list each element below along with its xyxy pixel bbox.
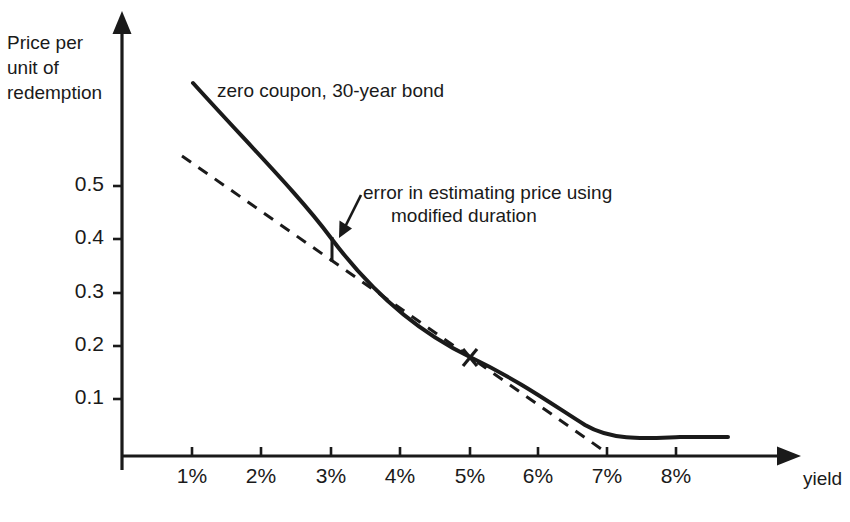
- y-axis-title-line-2: redemption: [7, 80, 102, 105]
- x-axis-title: yield: [803, 466, 842, 491]
- y-tick-label-1: 0.2: [42, 332, 104, 356]
- y-tick-label-2: 0.3: [42, 279, 104, 303]
- x-tick-label-7: 8%: [646, 464, 706, 488]
- y-tick-label-3: 0.4: [42, 225, 104, 249]
- x-tick-label-3: 4%: [370, 464, 430, 488]
- error-annotation-line-2: modified duration: [391, 203, 537, 228]
- y-axis-title-line-0: Price per: [7, 30, 102, 55]
- error-annotation-line-1: error in estimating price using: [363, 180, 612, 205]
- x-tick-label-5: 6%: [508, 464, 568, 488]
- x-tick-label-1: 2%: [231, 464, 291, 488]
- x-tick-label-0: 1%: [162, 464, 222, 488]
- y-tick-label-0: 0.1: [42, 385, 104, 409]
- series-label-zero-coupon: zero coupon, 30-year bond: [217, 78, 444, 103]
- x-tick-label-2: 3%: [301, 464, 361, 488]
- y-axis-title: Price perunit ofredemption: [7, 30, 102, 105]
- y-axis-title-line-1: unit of: [7, 55, 102, 80]
- x-tick-label-6: 7%: [577, 464, 637, 488]
- x-tick-label-4: 5%: [440, 464, 500, 488]
- y-tick-label-4: 0.5: [42, 172, 104, 196]
